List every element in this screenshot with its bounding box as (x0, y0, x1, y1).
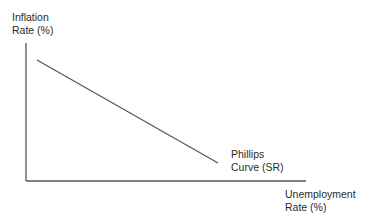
x-axis-label: Unemployment Rate (%) (285, 188, 356, 214)
curve-label-line1: Phillips (231, 148, 284, 161)
y-axis-label-line2: Rate (%) (12, 24, 53, 37)
y-axis-label: Inflation Rate (%) (12, 11, 53, 37)
curve-label: Phillips Curve (SR) (231, 148, 284, 174)
phillips-curve-line (37, 60, 218, 163)
x-axis-label-line1: Unemployment (285, 188, 356, 201)
x-axis-label-line2: Rate (%) (285, 201, 356, 214)
y-axis-label-line1: Inflation (12, 11, 53, 24)
curve-label-line2: Curve (SR) (231, 161, 284, 174)
